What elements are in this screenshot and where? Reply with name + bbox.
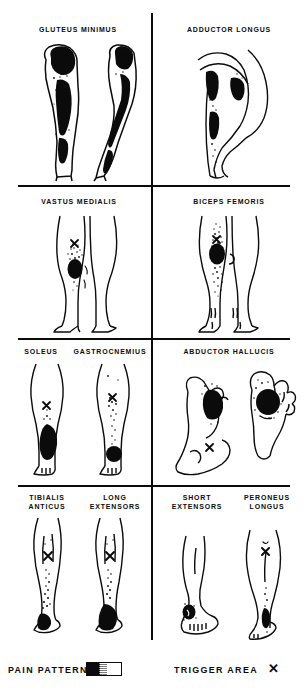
figure-peroneus-longus	[236, 522, 292, 640]
panel-label-gastrocnemius: GASTROCNEMIUS	[71, 348, 150, 357]
panel-label-soleus: SOLEUS	[12, 348, 70, 357]
divider-vertical-main	[151, 13, 153, 640]
divider-row-3-4	[18, 485, 290, 487]
figure-soleus	[22, 362, 72, 478]
panel-label-biceps-femoris: BICEPS FEMORIS	[172, 198, 287, 207]
panel-label-gluteus-minimus: GLUTEUS MINIMUS	[22, 26, 135, 35]
panel-label-abductor-hallucis: ABDUCTOR HALLUCIS	[172, 348, 287, 357]
panel-label-long-extensors: LONG EXTENSORS	[80, 494, 150, 511]
figure-gluteus-minimus-posterior	[26, 42, 88, 182]
panel-label-peroneus-longus: PERONEUS LONGUS	[232, 494, 302, 511]
figure-long-extensors	[88, 516, 134, 634]
divider-row-2-3	[18, 338, 290, 340]
legend-trigger-symbol: ✕	[268, 662, 279, 675]
figure-biceps-femoris	[188, 212, 272, 334]
divider-row-1-2	[18, 185, 290, 187]
figure-vastus-medialis	[44, 214, 128, 334]
figure-gastrocnemius	[88, 362, 138, 478]
figure-tibialis-anticus	[26, 516, 72, 634]
figure-short-extensors	[170, 530, 222, 638]
figure-abductor-hallucis-medial	[172, 366, 238, 478]
panel-label-adductor-longus: ADDUCTOR LONGUS	[172, 26, 287, 35]
figure-gluteus-minimus-lateral	[88, 42, 146, 182]
panel-label-vastus-medialis: VASTUS MEDIALIS	[22, 198, 137, 207]
panel-label-short-extensors: SHORT EXTENSORS	[160, 494, 233, 511]
figure-abductor-hallucis-plantar	[240, 366, 298, 466]
figure-adductor-longus	[186, 44, 286, 182]
legend-swatch-solid	[87, 663, 100, 675]
panel-label-tibialis-anticus: TIBIALIS ANTICUS	[16, 494, 78, 511]
legend-trigger-area-label: TRIGGER AREA	[174, 664, 258, 675]
trigger-point-chart: GLUTEUS MINIMUS	[0, 0, 306, 689]
legend-pain-pattern-label: PAIN PATTERN	[8, 664, 88, 675]
legend-pain-pattern-swatch	[86, 662, 122, 676]
legend-swatch-stipple	[99, 663, 106, 675]
